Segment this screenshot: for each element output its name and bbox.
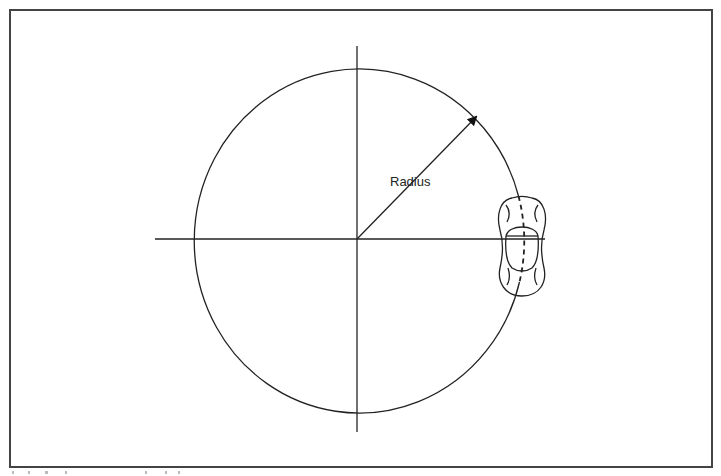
- radius-label: Radius: [390, 174, 431, 189]
- vehicle-icon: [499, 197, 546, 297]
- footer-caption: [12, 471, 180, 474]
- diagram-canvas: Radius: [0, 0, 721, 476]
